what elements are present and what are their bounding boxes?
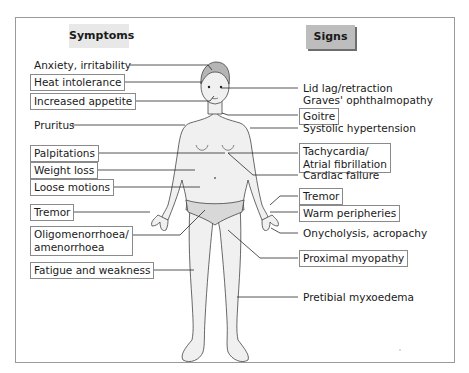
symptom-fatigue: Fatigue and weakness xyxy=(30,262,154,279)
symptom-anxiety: Anxiety, irritability xyxy=(34,59,131,72)
symptom-weight-loss: Weight loss xyxy=(30,162,98,179)
symptom-pruritus: Pruritus xyxy=(34,119,75,132)
sign-proximal-myopathy: Proximal myopathy xyxy=(299,250,408,267)
sign-systolic-hypertension: Systolic hypertension xyxy=(303,122,416,135)
sign-pretibial-myxoedema: Pretibial myxoedema xyxy=(303,291,414,304)
speck xyxy=(399,349,401,351)
symptom-oligomenorrhoea-line2: amenorrhoea xyxy=(34,241,129,254)
sign-onycholysis: Onycholysis, acropachy xyxy=(303,227,427,240)
sign-graves-ophthalmopathy: Graves' ophthalmopathy xyxy=(303,94,433,107)
sign-tachycardia-line1: Tachycardia/ xyxy=(303,145,387,158)
symptom-increased-appetite: Increased appetite xyxy=(30,93,136,110)
sign-warm-peripheries: Warm peripheries xyxy=(299,205,400,222)
symptom-tremor: Tremor xyxy=(30,204,74,221)
symptom-palpitations: Palpitations xyxy=(30,145,99,162)
symptom-oligomenorrhoea-line1: Oligomenorrhoea/ xyxy=(34,228,129,241)
symptom-heat-intolerance: Heat intolerance xyxy=(30,74,125,91)
sign-cardiac-failure: Cardiac failure xyxy=(303,169,379,182)
symptom-loose-motions: Loose motions xyxy=(30,179,114,196)
sign-tremor: Tremor xyxy=(299,188,343,205)
symptom-oligomenorrhoea: Oligomenorrhoea/ amenorrhoea xyxy=(30,226,133,256)
